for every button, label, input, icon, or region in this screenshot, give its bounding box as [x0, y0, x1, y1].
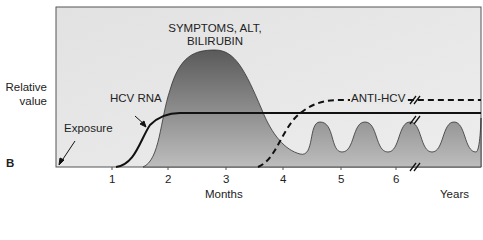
symptoms-label: SYMPTOMS, ALT, BILIRUBIN	[160, 22, 270, 48]
anti-hcv-label: ANTI-HCV	[350, 92, 406, 104]
xlabel-years: Years	[440, 188, 469, 200]
tick-1: 1	[109, 173, 115, 185]
xlabel-months: Months	[205, 188, 243, 200]
tick-6: 6	[393, 173, 399, 185]
ylabel-line2: value	[5, 94, 47, 108]
exposure-label: Exposure	[64, 122, 113, 134]
symptoms-label-line1: SYMPTOMS, ALT,	[160, 22, 270, 35]
tick-3: 3	[223, 173, 229, 185]
symptoms-label-line2: BILIRUBIN	[160, 35, 270, 48]
tick-2: 2	[165, 173, 171, 185]
panel-label: B	[6, 157, 14, 169]
ylabel: Relative value	[5, 80, 47, 108]
hcv-rna-label: HCV RNA	[110, 92, 162, 104]
tick-5: 5	[338, 173, 344, 185]
tick-4: 4	[280, 173, 286, 185]
ylabel-line1: Relative	[5, 80, 47, 94]
